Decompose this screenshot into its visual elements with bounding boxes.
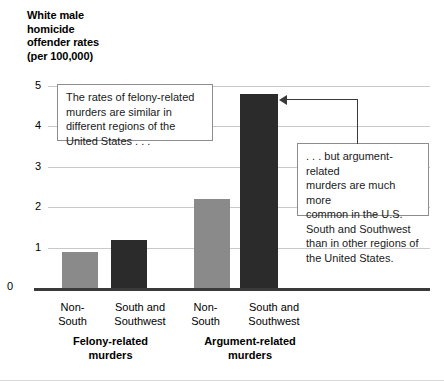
category-label-felony-south-southwest: South and Southwest [100, 300, 180, 328]
y-tick-label-5: 5 [21, 80, 41, 91]
category-label-felony-non-south: Non- South [40, 300, 105, 328]
y-tick-label-4: 4 [21, 120, 41, 131]
chart-figure: White male homicide offender rates (per … [0, 0, 444, 381]
group-label-felony-related: Felony-related murders [48, 334, 173, 362]
group-label-argument-related: Argument-related murders [180, 334, 320, 362]
bar-felony-non-south [62, 252, 98, 288]
category-label-argument-non-south: Non- South [173, 300, 238, 328]
callout-connector-horizontal [285, 99, 358, 100]
category-label-argument-south-southwest: South and Southwest [232, 300, 316, 328]
bar-argument-south-southwest [240, 94, 278, 288]
bar-felony-south-southwest [111, 240, 147, 288]
y-tick-label-2: 2 [21, 201, 41, 212]
callout-left: The rates of felony-related murders are … [57, 84, 213, 141]
y-tick-label-1: 1 [21, 242, 41, 253]
callout-arrow-icon [279, 95, 287, 105]
bar-argument-non-south [194, 199, 230, 288]
x-axis-baseline: 0 [34, 288, 430, 291]
y-tick-label-0: 0 [0, 281, 13, 292]
chart-title: White male homicide offender rates (per … [27, 9, 177, 63]
callout-right: . . . but argument-related murders are m… [297, 143, 429, 216]
callout-connector-vertical [357, 99, 358, 144]
y-tick-label-3: 3 [21, 161, 41, 172]
